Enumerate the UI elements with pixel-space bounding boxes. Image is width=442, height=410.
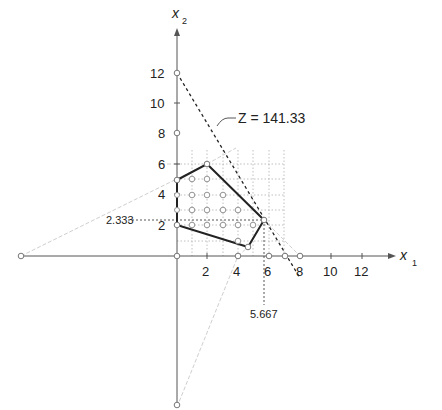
integer-grid xyxy=(177,150,284,256)
axes xyxy=(21,32,392,407)
y-tick-10: 10 xyxy=(150,96,164,111)
y-tick-4: 4 xyxy=(158,187,165,202)
y-tick-2: 2 xyxy=(158,218,165,233)
x-axis-arrow-icon xyxy=(388,253,396,259)
objective-value-label: Z = 141.33 xyxy=(238,110,306,126)
x-tick-2: 2 xyxy=(202,264,209,279)
x-tick-8: 8 xyxy=(296,264,303,279)
y-axis-subscript: 2 xyxy=(182,16,187,26)
y-optimal-label: 2.333 xyxy=(106,214,134,226)
x-tick-12: 12 xyxy=(354,264,368,279)
objective-leader xyxy=(217,118,236,126)
diagram-canvas: x 2 x 1 2 4 6 8 10 12 2 4 6 8 10 12 2.33… xyxy=(0,0,442,410)
x-optimal-label: 5.667 xyxy=(250,308,278,320)
y-tick-8: 8 xyxy=(158,126,165,141)
x-tick-10: 10 xyxy=(323,264,337,279)
x-axis-subscript: 1 xyxy=(412,258,417,268)
y-axis-arrow-icon xyxy=(174,28,180,36)
x-axis-label: x xyxy=(399,247,408,263)
x-tick-6: 6 xyxy=(264,264,271,279)
x-tick-4: 4 xyxy=(233,264,240,279)
lp-diagram: x 2 x 1 2 4 6 8 10 12 2 4 6 8 10 12 2.33… xyxy=(0,0,442,410)
y-tick-6: 6 xyxy=(158,157,165,172)
y-axis-label: x xyxy=(171,5,180,21)
optimal-projections xyxy=(128,220,264,305)
y-tick-12: 12 xyxy=(150,66,164,81)
objective-line xyxy=(177,73,300,278)
